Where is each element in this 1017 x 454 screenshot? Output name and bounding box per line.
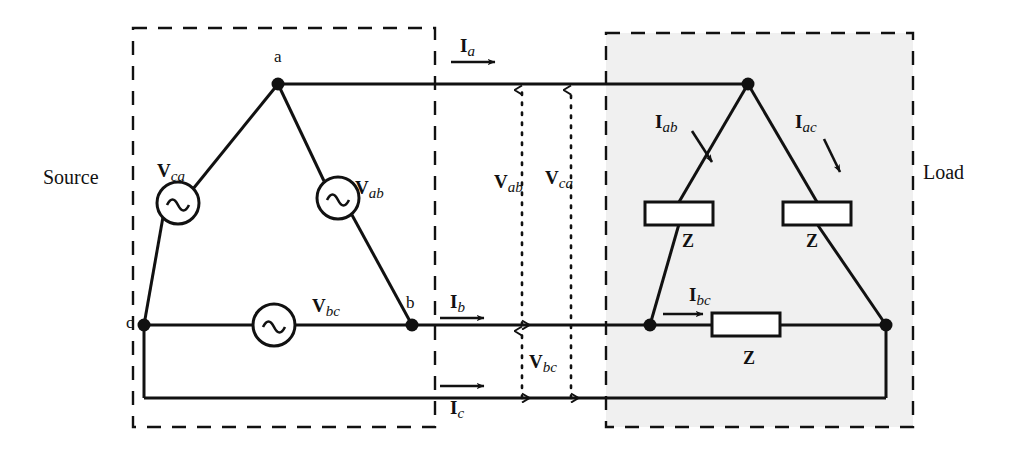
impedance-box-ac [783, 202, 851, 225]
node-label-c: c [126, 314, 134, 331]
line-voltage-label-vab: Vab [494, 172, 523, 191]
impedance-label-ac: Z [806, 232, 818, 250]
source-label-vca: Vca [157, 161, 185, 180]
load-label-ibc: Ibc [689, 285, 711, 304]
node-dot-b [406, 319, 419, 332]
node-dot-load-c [880, 319, 893, 332]
vab-sub: ab [369, 185, 384, 201]
source-leg-ab-upper [278, 84, 324, 181]
source-label-vab: Vab [355, 178, 384, 197]
vbc-src-base: V [312, 295, 326, 316]
line-label-ic: Ic [450, 398, 464, 417]
source-label-vbc: Vbc [312, 296, 340, 315]
iac-sub: ac [802, 119, 816, 135]
source-dashed-box [133, 28, 435, 427]
node-dot-a [272, 78, 285, 91]
impedance-box-ab [645, 202, 713, 225]
vbc-src-sub: bc [326, 303, 340, 319]
vca-base: V [157, 160, 171, 181]
vca-line-base: V [545, 167, 559, 188]
circuit-svg [0, 0, 1017, 454]
ib-sub: b [457, 299, 465, 315]
vab-line-base: V [494, 171, 508, 192]
vca-line-sub: ca [559, 175, 573, 191]
node-label-b: b [406, 294, 415, 311]
source-leg-ab-lower [352, 215, 412, 325]
vab-line-sub: ab [508, 179, 523, 195]
ac-source-icon-ab [317, 177, 359, 219]
impedance-label-ab: Z [682, 232, 694, 250]
ic-sub: c [457, 405, 464, 421]
load-label-iab: Iab [655, 112, 677, 131]
source-region-label: Source [43, 167, 99, 187]
ia-sub: a [467, 43, 475, 59]
node-dot-c [138, 319, 151, 332]
line-label-ib: Ib [450, 292, 465, 311]
ac-source-icon-ca [157, 182, 199, 224]
source-leg-ca-lower [144, 217, 163, 325]
load-label-iac: Iac [795, 112, 817, 131]
impedance-label-bc: Z [743, 349, 755, 367]
node-dot-load-a [742, 78, 755, 91]
source-leg-ca-upper [193, 84, 278, 189]
line-voltage-label-vbc: Vbc [529, 352, 557, 371]
line-voltage-label-vca: Vca [545, 168, 573, 187]
load-region-label: Load [923, 162, 964, 182]
ibc-sub: bc [696, 292, 710, 308]
vbc-line-sub: bc [543, 359, 557, 375]
line-label-ia: Ia [460, 36, 475, 55]
vbc-line-base: V [529, 351, 543, 372]
impedance-box-bc [712, 313, 780, 336]
vab-base: V [355, 177, 369, 198]
figure-canvas: Source Load a b c Vca Vab Vbc Ia Ib Ic V… [0, 0, 1017, 454]
node-label-a: a [274, 48, 282, 65]
load-region-fill [606, 33, 913, 427]
vca-sub: ca [171, 168, 185, 184]
node-dot-load-b [644, 319, 657, 332]
ac-source-icon-bc [253, 304, 295, 346]
iab-sub: ab [662, 119, 677, 135]
